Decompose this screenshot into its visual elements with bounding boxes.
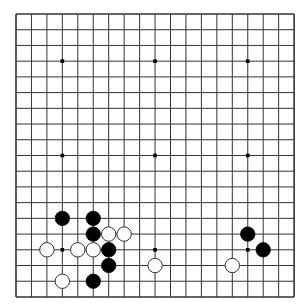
white-stone[interactable]: [71, 243, 85, 257]
white-stone[interactable]: [55, 274, 69, 288]
go-board-grid[interactable]: [0, 0, 300, 307]
white-stone[interactable]: [86, 243, 100, 257]
star-point-icon: [153, 59, 157, 63]
black-stone[interactable]: [86, 227, 100, 241]
black-stone[interactable]: [102, 243, 116, 257]
go-board[interactable]: [0, 0, 300, 307]
star-point-icon: [246, 59, 250, 63]
black-stone[interactable]: [241, 227, 255, 241]
black-stone[interactable]: [55, 211, 69, 225]
star-point-icon: [153, 248, 157, 252]
white-stone[interactable]: [40, 243, 54, 257]
black-stone[interactable]: [86, 274, 100, 288]
star-point-icon: [61, 248, 65, 252]
white-stone[interactable]: [225, 258, 239, 272]
white-stone[interactable]: [117, 227, 131, 241]
star-point-icon: [246, 154, 250, 158]
black-stone[interactable]: [102, 258, 116, 272]
star-point-icon: [153, 154, 157, 158]
star-point-icon: [246, 248, 250, 252]
white-stone[interactable]: [102, 227, 116, 241]
black-stone[interactable]: [256, 243, 270, 257]
white-stone[interactable]: [148, 258, 162, 272]
star-point-icon: [61, 154, 65, 158]
star-point-icon: [61, 59, 65, 63]
black-stone[interactable]: [86, 211, 100, 225]
